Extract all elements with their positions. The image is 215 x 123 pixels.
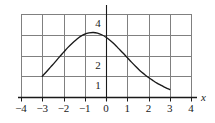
x-tick-label: 3 xyxy=(161,103,179,114)
x-tick-label: −1 xyxy=(76,103,94,114)
x-tick-label: 4 xyxy=(182,103,200,114)
x-tick-label: −3 xyxy=(33,103,51,114)
x-tick-label: 2 xyxy=(140,103,158,114)
y-tick-label: 4 xyxy=(91,18,105,29)
y-tick-label: 2 xyxy=(91,60,105,71)
x-axis-label: x xyxy=(201,92,206,103)
y-tick-label: 1 xyxy=(91,80,105,91)
x-tick-label: 0 xyxy=(97,103,115,114)
x-tick-label: −4 xyxy=(12,103,30,114)
x-tick-label: 1 xyxy=(118,103,136,114)
graph-figure: −4−3−2−101234 421 x xyxy=(0,0,215,123)
x-tick-label: −2 xyxy=(55,103,73,114)
